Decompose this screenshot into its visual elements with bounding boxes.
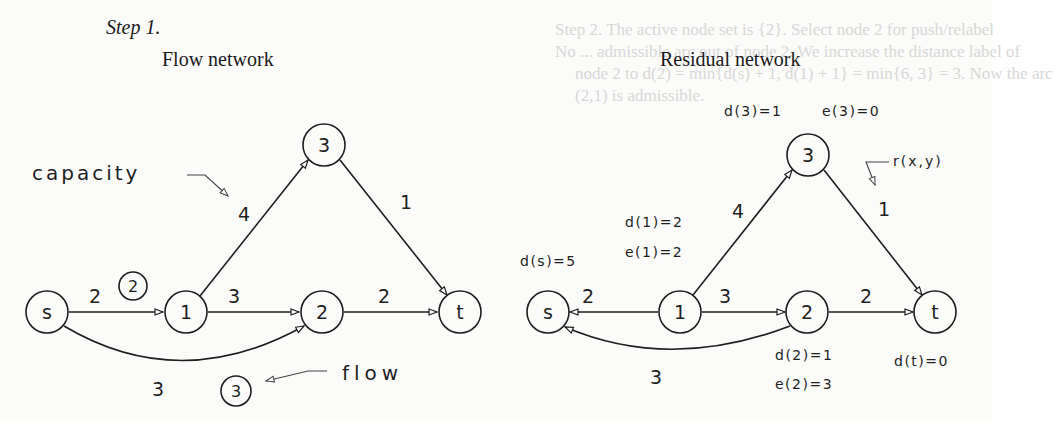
distance-s: d(s)=5 bbox=[520, 253, 577, 269]
capacity-1-2: 3 bbox=[228, 285, 240, 307]
residual-node-s: s bbox=[527, 291, 569, 333]
flow-annotation: flow bbox=[342, 361, 403, 385]
capacity-3-t: 1 bbox=[400, 191, 412, 213]
capacity-1-3: 4 bbox=[238, 203, 250, 225]
node-3: 3 bbox=[303, 124, 345, 166]
edge-1-3 bbox=[200, 160, 308, 296]
svg-text:3: 3 bbox=[231, 382, 241, 401]
node-t: t bbox=[439, 291, 481, 333]
svg-text:t: t bbox=[931, 301, 938, 323]
residual-1-s: 2 bbox=[582, 285, 594, 307]
flow-pointer-arrow bbox=[266, 371, 327, 381]
node-s: s bbox=[26, 291, 68, 333]
svg-text:1: 1 bbox=[674, 301, 686, 323]
distance-1: d(1)=2 bbox=[625, 214, 683, 230]
flow-network: s 1 2 3 t 2 3 3 4 2 1 bbox=[26, 124, 481, 406]
flow-s-1: 2 bbox=[119, 272, 147, 300]
distance-2: d(2)=1 bbox=[775, 347, 833, 363]
residual-node-t: t bbox=[914, 291, 956, 333]
svg-text:t: t bbox=[456, 301, 463, 323]
distance-3: d(3)=1 bbox=[724, 103, 782, 119]
edge-3-t bbox=[340, 160, 447, 295]
svg-text:2: 2 bbox=[801, 301, 813, 323]
residual-2-t: 2 bbox=[860, 285, 872, 307]
residual-pointer-arrow bbox=[866, 162, 889, 185]
node-1: 1 bbox=[165, 291, 207, 333]
excess-1: e(1)=2 bbox=[625, 244, 683, 260]
distance-t: d(t)=0 bbox=[894, 353, 949, 369]
excess-3: e(3)=0 bbox=[822, 103, 880, 119]
capacity-s-2: 3 bbox=[152, 378, 164, 400]
svg-text:3: 3 bbox=[802, 144, 814, 166]
residual-3-t: 1 bbox=[878, 198, 890, 220]
svg-text:2: 2 bbox=[316, 301, 328, 323]
residual-node-1: 1 bbox=[659, 291, 701, 333]
residual-annotation: r(x,y) bbox=[893, 153, 943, 169]
residual-node-3: 3 bbox=[787, 134, 829, 176]
flow-s-2: 3 bbox=[221, 376, 251, 406]
capacity-2-t: 2 bbox=[378, 285, 390, 307]
capacity-annotation: capacity bbox=[32, 161, 140, 185]
node-2: 2 bbox=[301, 291, 343, 333]
residual-1-3: 4 bbox=[732, 200, 744, 222]
residual-1-2: 3 bbox=[719, 285, 731, 307]
svg-text:1: 1 bbox=[180, 301, 192, 323]
capacity-s-1: 2 bbox=[89, 285, 101, 307]
residual-2-s: 3 bbox=[650, 366, 662, 388]
svg-text:3: 3 bbox=[318, 134, 330, 156]
capacity-pointer-arrow bbox=[187, 175, 228, 196]
residual-edge-3-t bbox=[824, 170, 922, 295]
svg-text:2: 2 bbox=[128, 277, 138, 296]
svg-text:s: s bbox=[42, 301, 52, 323]
svg-text:s: s bbox=[543, 301, 553, 323]
residual-network: s 1 2 3 t 2 3 3 4 2 1 bbox=[520, 103, 956, 392]
residual-edge-1-3 bbox=[693, 170, 792, 295]
excess-2: e(2)=3 bbox=[775, 376, 833, 392]
residual-node-2: 2 bbox=[786, 291, 828, 333]
